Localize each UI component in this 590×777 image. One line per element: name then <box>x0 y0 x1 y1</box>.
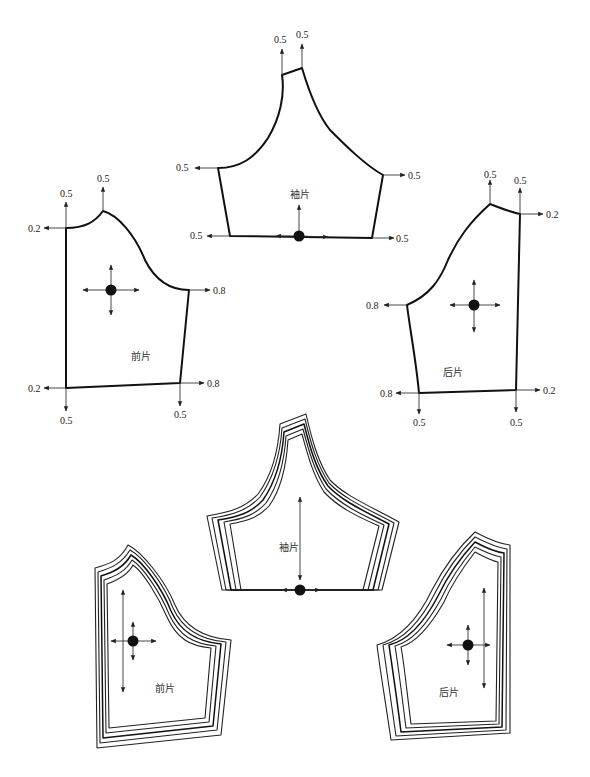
back-hem-right-grade: 0.2 <box>543 386 556 396</box>
sleeve-nested-label: 袖片 <box>279 543 299 553</box>
back-hem-right-down-grade: 0.5 <box>510 418 523 428</box>
sleeve-hem-left-grade: 0.5 <box>190 231 203 241</box>
sleeve-hem-right-grade: 0.5 <box>396 234 409 244</box>
sleeve-piece-top <box>195 44 405 242</box>
sleeve-cap-right-grade: 0.5 <box>296 30 309 40</box>
back-piece-top <box>384 180 543 414</box>
front-shoulder-up-grade: 0.5 <box>97 174 110 184</box>
pattern-grading-diagram <box>0 0 590 777</box>
back-shoulder-up-grade: 0.5 <box>484 170 497 180</box>
front-hem-right-grade: 0.8 <box>207 379 220 389</box>
back-neck-up-grade: 0.5 <box>514 176 527 186</box>
sleeve-piece-label: 袖片 <box>290 190 310 200</box>
back-hem-left-grade: 0.8 <box>380 389 393 399</box>
front-neck-left-grade: 0.2 <box>28 224 41 234</box>
front-nested-label: 前片 <box>155 684 175 694</box>
front-piece-top <box>44 187 210 411</box>
front-armhole-right-grade: 0.8 <box>213 286 226 296</box>
back-piece-nested <box>377 532 510 740</box>
sleeve-underarm-right-grade: 0.5 <box>408 171 421 181</box>
front-hem-left-grade: 0.2 <box>28 384 41 394</box>
front-piece-nested <box>95 545 231 748</box>
front-hem-right-down-grade: 0.5 <box>174 410 187 420</box>
back-piece-label: 后片 <box>443 368 463 378</box>
sleeve-piece-nested <box>207 414 399 596</box>
front-piece-label: 前片 <box>131 352 151 362</box>
back-nested-label: 后片 <box>439 688 459 698</box>
back-hem-left-down-grade: 0.5 <box>413 418 426 428</box>
front-hem-left-down-grade: 0.5 <box>60 416 73 426</box>
back-armhole-left-grade: 0.8 <box>366 301 379 311</box>
back-neck-right-grade: 0.2 <box>546 210 559 220</box>
front-neck-up-grade: 0.5 <box>60 189 73 199</box>
sleeve-cap-left-grade: 0.5 <box>274 35 287 45</box>
sleeve-underarm-left-grade: 0.5 <box>176 163 189 173</box>
